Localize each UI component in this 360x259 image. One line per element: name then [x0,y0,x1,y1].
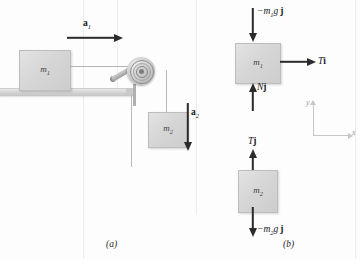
y-axis-arrowhead [310,100,316,105]
pulley-post [133,84,136,106]
block-m1-label: m1 [20,65,70,76]
block-m1-fbd-label: m1 [236,58,280,69]
caption-a: (a) [106,239,117,249]
weight-label-m1: −m1g j [257,7,283,18]
caption-b: (b) [283,239,294,249]
y-axis [313,105,314,136]
string-vertical [166,70,167,112]
acceleration-arrow-a1 [67,33,123,43]
tension-label-m1: Ti [318,57,326,67]
acceleration-label-a1: a1 [83,19,91,30]
figure-canvas: a1 m1 m2 a2 (a) [0,0,360,259]
block-m2-fbd: m2 [238,170,278,213]
normal-force-label-m1: Nj [257,83,267,93]
x-axis-label: x [352,128,356,137]
block-m1-physical: m1 [19,50,71,91]
coordinate-axes: y x [306,99,354,139]
tension-arrow-m1 [280,57,316,67]
block-m2-fbd-label: m2 [239,186,277,197]
tension-label-m2: Tj [248,137,256,147]
accel1-subscript: 1 [88,23,91,30]
string-horizontal [70,66,133,67]
weight-label-m2: −m2g j [257,225,283,236]
block-m2-label: m2 [149,124,187,135]
acceleration-label-a2: a2 [191,108,199,119]
block-m1-fbd: m1 [235,43,281,84]
y-axis-label: y [306,98,310,107]
block-m2-physical: m2 [148,112,188,148]
x-axis [313,135,351,136]
pulley [127,57,155,85]
accel2-subscript: 2 [196,112,199,119]
